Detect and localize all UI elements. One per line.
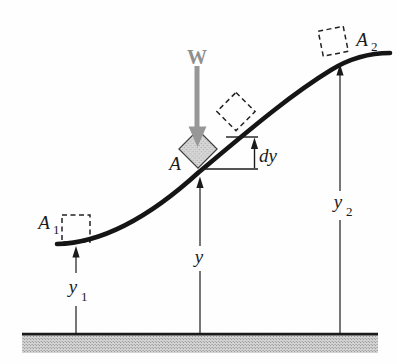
dy-label: dy	[259, 145, 278, 166]
y-arrowhead	[196, 177, 203, 189]
y1-arrowhead	[72, 246, 79, 258]
block-a2-label: A	[354, 29, 368, 50]
weight-label: W	[187, 46, 207, 68]
dy-arrowhead	[251, 138, 258, 150]
block-a1-subscript: 1	[53, 222, 60, 237]
y1-subscript: 1	[81, 289, 88, 304]
block-mid-dashed-outline	[217, 92, 255, 130]
block-a1-label: A	[36, 212, 50, 233]
y2-label: y	[332, 191, 343, 212]
block-a-label: A	[167, 153, 181, 174]
y2-subscript: 2	[346, 204, 353, 219]
block-a2-subscript: 2	[371, 39, 378, 54]
y1-label: y	[67, 276, 78, 297]
diagram-canvas: W A A 1 A 2 dy y y 1 y 2	[0, 0, 396, 364]
block-a2-outline	[318, 26, 348, 56]
incline-work-diagram: W A A 1 A 2 dy y y 1 y 2	[0, 0, 396, 364]
y-label: y	[193, 246, 204, 267]
ground-surface	[22, 336, 378, 354]
